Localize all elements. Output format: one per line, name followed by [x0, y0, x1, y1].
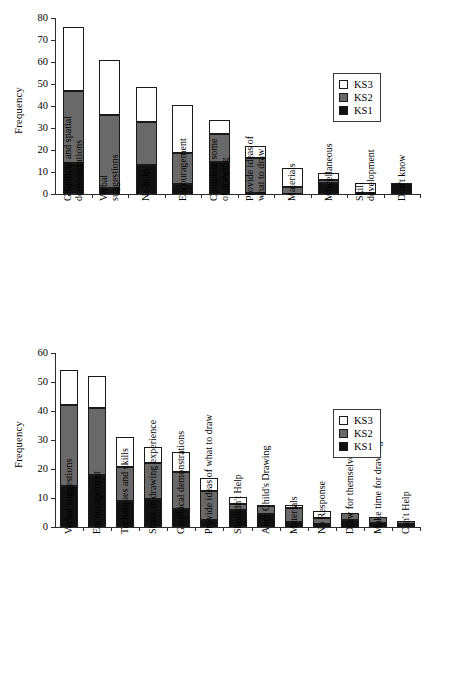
bar-segment-ks3	[99, 60, 120, 115]
legend-item[interactable]: KS2	[339, 91, 373, 104]
x-tick-label-line: Graphical and spatial	[63, 116, 74, 201]
y-tick-mark	[51, 106, 55, 107]
legend-swatch-ks2	[339, 429, 348, 438]
x-tick-mark	[364, 527, 365, 531]
x-tick-label: Complete someof drawing	[209, 139, 230, 202]
x-tick-label-line: Provide ideas of what to draw	[204, 414, 215, 534]
x-tick-mark	[347, 194, 348, 198]
x-tick-label-line: Don't know	[397, 154, 408, 201]
x-tick-label-line: Graphical demonstrations	[176, 431, 187, 534]
y-tick-label: 40	[22, 101, 48, 112]
chart-panel-bottom: 0102030405060FrequencyVerbal suggestions…	[0, 341, 453, 682]
y-tick-mark	[51, 382, 55, 383]
y-tick-label: 10	[22, 167, 48, 178]
x-tick-mark	[83, 527, 84, 531]
legend: KS3KS2KS1	[333, 73, 381, 122]
x-tick-label: No Response	[317, 481, 328, 534]
legend-item[interactable]: KS1	[339, 440, 373, 453]
x-tick-mark	[308, 527, 309, 531]
y-tick-mark	[51, 18, 55, 19]
y-tick-label: 20	[22, 464, 48, 475]
x-tick-label-line: Materials	[287, 163, 298, 201]
legend-swatch-ks2	[339, 93, 348, 102]
y-tick-label: 50	[22, 79, 48, 90]
x-tick-label-line: No Response	[317, 481, 328, 534]
y-tick-label: 60	[22, 57, 48, 68]
x-tick-label: Encouragement	[92, 471, 103, 534]
x-tick-label-line: Encouragement	[92, 471, 103, 534]
x-tick-label: Don't know	[397, 154, 408, 201]
legend-item[interactable]: KS3	[339, 414, 373, 427]
y-tick-label: 0	[22, 522, 48, 533]
y-tick-mark	[51, 411, 55, 412]
bar-segment-ks2	[136, 122, 157, 165]
y-tick-mark	[51, 128, 55, 129]
chart-panel-top: 01020304050607080FrequencyGraphical and …	[0, 0, 453, 341]
legend-item[interactable]: KS3	[339, 78, 373, 91]
bar-segment-ks3	[88, 376, 106, 408]
x-tick-label-line: Shouldn't Help	[233, 474, 244, 534]
legend-label: KS2	[354, 92, 373, 103]
x-tick-mark	[420, 527, 421, 531]
y-axis-line	[55, 353, 56, 527]
legend-label: KS2	[354, 428, 373, 439]
legend-swatch-ks3	[339, 80, 348, 89]
x-tick-label-line: Techniques and skills	[120, 448, 131, 534]
legend-item[interactable]: KS2	[339, 427, 373, 440]
y-axis-line	[55, 18, 56, 194]
x-tick-mark	[139, 527, 140, 531]
y-axis-title: Frequency	[13, 421, 24, 468]
x-tick-label: Verbal suggestions	[64, 459, 75, 534]
x-tick-label-line: Can't Help	[401, 491, 412, 534]
x-tick-mark	[165, 194, 166, 198]
x-tick-mark	[280, 527, 281, 531]
y-tick-mark	[51, 40, 55, 41]
x-tick-label: Verbalsuggestions	[99, 154, 120, 201]
x-tick-label: Shouldn't Help	[233, 474, 244, 534]
bar-segment-ks3	[209, 120, 230, 134]
x-tick-label-line: Materials	[289, 496, 300, 534]
x-tick-label-line: Draw for themselves	[345, 451, 356, 534]
y-tick-mark	[51, 469, 55, 470]
x-tick-mark	[420, 194, 421, 198]
x-tick-label: Draw for themselves	[345, 451, 356, 534]
x-tick-mark	[92, 194, 93, 198]
x-tick-mark	[128, 194, 129, 198]
x-tick-label: Materials	[287, 163, 298, 201]
legend-item[interactable]: KS1	[339, 104, 373, 117]
y-tick-mark	[51, 84, 55, 85]
x-tick-label-line: Alter Child's Drawing	[261, 446, 272, 534]
x-tick-label-line: demonstrations	[74, 116, 85, 201]
x-tick-label-line: Encouragement	[178, 138, 189, 201]
x-tick-label: Provide ideas of what to draw	[204, 414, 215, 534]
x-tick-label-line: Provide ideas of	[245, 136, 256, 201]
x-tick-label: Graphical and spatialdemonstrations	[63, 116, 84, 201]
x-tick-label-line: Complete some	[209, 139, 220, 202]
x-tick-mark	[384, 194, 385, 198]
legend: KS3KS2KS1	[333, 409, 381, 458]
x-tick-label-line: Verbal suggestions	[64, 459, 75, 534]
legend-swatch-ks1	[339, 106, 348, 115]
x-tick-label: Can't Help	[401, 491, 412, 534]
x-tick-label: Graphical demonstrations	[176, 431, 187, 534]
y-tick-mark	[51, 172, 55, 173]
x-tick-label: Share in drawing experience	[148, 420, 159, 534]
x-tick-label: Provide ideas ofwhat to draw	[245, 136, 266, 201]
y-tick-label: 40	[22, 406, 48, 417]
x-tick-mark	[167, 527, 168, 531]
x-tick-label-line: what to draw	[256, 136, 267, 201]
x-tick-label-line: development	[366, 149, 377, 201]
y-tick-mark	[51, 150, 55, 151]
y-tick-label: 20	[22, 145, 48, 156]
legend-swatch-ks3	[339, 416, 348, 425]
y-tick-mark	[51, 62, 55, 63]
legend-label: KS3	[354, 79, 373, 90]
x-tick-label-line: of drawing	[220, 139, 231, 202]
y-tick-label: 70	[22, 35, 48, 46]
x-tick-label-line: Share in drawing experience	[148, 420, 159, 534]
x-tick-label: Alter Child's Drawing	[261, 446, 272, 534]
x-tick-mark	[336, 527, 337, 531]
y-tick-label: 30	[22, 123, 48, 134]
x-tick-label: Encouragement	[178, 138, 189, 201]
x-tick-mark	[311, 194, 312, 198]
